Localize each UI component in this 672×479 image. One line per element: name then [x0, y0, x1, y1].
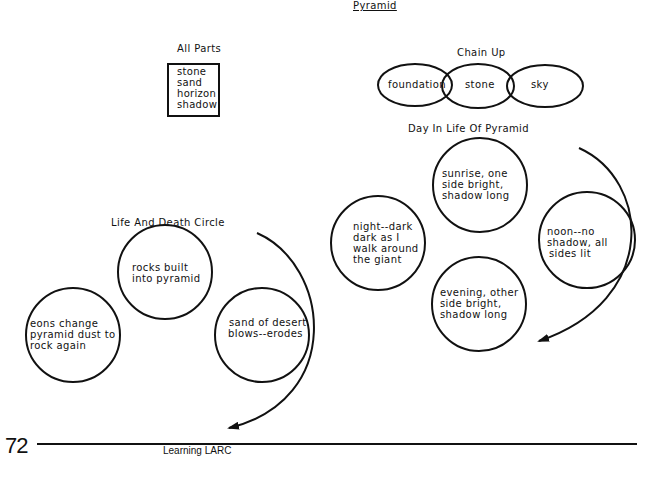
life-stage-sand: sand of desert blows--erodes	[228, 317, 307, 339]
footer-text: Learning LARC	[163, 445, 231, 456]
page-number: 72	[5, 433, 27, 459]
chain-label-sky: sky	[531, 79, 549, 90]
chain-label-stone: stone	[465, 79, 495, 90]
day-stage-noon: noon--no shadow, all sides lit	[547, 226, 608, 259]
day-stage-night: night--dark dark as I walk around the gi…	[353, 221, 419, 265]
chain-label-foundation: foundation	[388, 79, 446, 90]
day-stage-evening: evening, other side bright, shadow long	[440, 287, 519, 320]
life-stage-rocks: rocks built into pyramid	[132, 262, 201, 284]
life-stage-eons: eons change pyramid dust to rock again	[30, 318, 116, 351]
day-stage-sunrise: sunrise, one side bright, shadow long	[442, 168, 509, 201]
